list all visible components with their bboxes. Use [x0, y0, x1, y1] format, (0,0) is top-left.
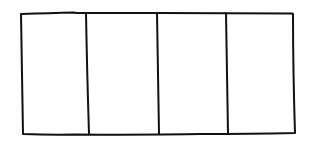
divider-1: [86, 13, 89, 134]
section-2: [89, 15, 157, 133]
section-4: [228, 15, 292, 133]
divided-rectangle-diagram: [0, 0, 310, 148]
divider-2: [157, 13, 159, 134]
divider-3: [226, 13, 228, 134]
section-3: [159, 15, 226, 133]
section-1: [23, 15, 86, 133]
